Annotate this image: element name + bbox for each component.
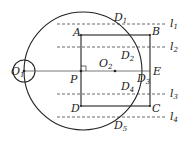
point-b: [149, 34, 151, 36]
label-l4: l4: [170, 110, 178, 124]
label-d: D: [70, 102, 80, 115]
label-d5: D5: [113, 119, 128, 133]
geometry-diagram: A B C D P E O2 O1 D1 D2 D3 D4 D5 l1 l2 l…: [0, 0, 190, 141]
label-b: B: [151, 25, 160, 38]
point-d: [80, 105, 82, 107]
label-p: P: [69, 73, 78, 86]
label-d4: D4: [120, 80, 134, 94]
point-o2: [114, 70, 117, 73]
label-e: E: [152, 65, 161, 78]
label-a: A: [72, 26, 81, 39]
label-l1: l1: [170, 17, 178, 31]
point-c: [149, 105, 151, 107]
label-d2: D2: [120, 49, 135, 63]
label-o1: O1: [11, 65, 25, 79]
label-d1: D1: [113, 11, 127, 25]
label-d3: D3: [136, 72, 151, 86]
label-l2: l2: [170, 40, 179, 54]
point-p: [80, 70, 83, 73]
label-l3: l3: [170, 87, 179, 101]
label-c: C: [152, 102, 161, 115]
label-o2: O2: [99, 57, 113, 71]
